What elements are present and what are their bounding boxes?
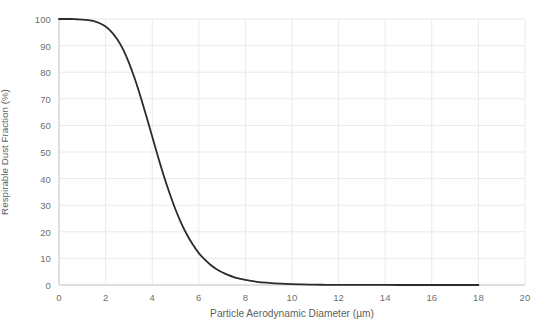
y-tick-label: 10 (0, 253, 51, 264)
x-tick-label: 2 (103, 292, 108, 303)
x-tick-label: 20 (520, 292, 531, 303)
y-tick-label: 100 (0, 14, 51, 25)
plot-area (0, 0, 549, 335)
x-tick-label: 18 (473, 292, 484, 303)
y-tick-label: 90 (0, 40, 51, 51)
x-tick-label: 12 (333, 292, 344, 303)
x-tick-label: 4 (149, 292, 154, 303)
x-tick-label: 14 (380, 292, 391, 303)
x-tick-label: 10 (287, 292, 298, 303)
y-tick-label: 0 (0, 280, 51, 291)
x-axis-title: Particle Aerodynamic Diameter (µm) (210, 308, 374, 319)
x-tick-label: 16 (426, 292, 437, 303)
x-tick-label: 6 (196, 292, 201, 303)
respirable-dust-fraction-chart: 0102030405060708090100 02468101214161820… (0, 0, 549, 335)
y-axis-title: Respirable Dust Fraction (%) (0, 89, 10, 215)
x-tick-label: 8 (243, 292, 248, 303)
x-tick-label: 0 (56, 292, 61, 303)
y-tick-label: 80 (0, 67, 51, 78)
y-tick-label: 20 (0, 226, 51, 237)
